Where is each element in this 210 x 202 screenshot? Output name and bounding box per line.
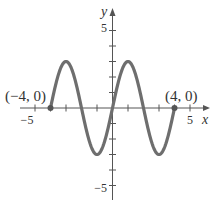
x-tick-label-neg5: −5 [21,113,34,127]
y-tick-label-neg5: −5 [94,181,107,195]
x-axis-label: x [201,112,209,127]
x-axis-arrow-icon [203,105,210,111]
point-label-left: (−4, 0) [5,88,46,105]
x-tick-label-pos5: 5 [187,113,193,127]
point-label-right: (4, 0) [165,88,198,105]
chart: y x −5 5 5 −5 (−4, 0) (4, 0) [0,0,210,202]
endpoint-left [48,105,54,111]
y-axis-label: y [99,4,108,19]
y-axis-arrow-icon [110,8,116,16]
y-tick-label-pos5: 5 [101,21,107,35]
endpoint-right [172,105,178,111]
